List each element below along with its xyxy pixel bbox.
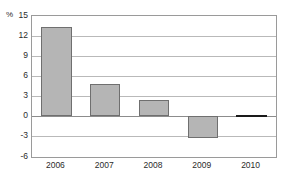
bar-2008 <box>139 100 169 116</box>
y-tick-label: 15 <box>19 10 28 19</box>
bar-2007 <box>90 84 120 116</box>
bar-2006 <box>41 27 71 116</box>
x-tick-label: 2007 <box>95 160 114 170</box>
bars-layer <box>32 16 276 157</box>
y-tick-label: -3 <box>20 131 28 140</box>
y-axis: 15129630-3-6 <box>0 10 30 162</box>
plot-area <box>31 15 277 158</box>
y-tick-label: 9 <box>23 50 28 59</box>
x-tick-label: 2008 <box>144 160 163 170</box>
bar-2009 <box>188 116 218 137</box>
y-tick-label: 3 <box>23 91 28 100</box>
y-tick-label: 12 <box>19 30 28 39</box>
x-axis: 20062007200820092010 <box>31 160 277 176</box>
bar-chart: % 15129630-3-6 20062007200820092010 <box>0 0 287 189</box>
y-tick-label: 6 <box>23 70 28 79</box>
x-tick-label: 2006 <box>46 160 65 170</box>
bar-2010 <box>236 115 266 117</box>
x-tick-label: 2010 <box>241 160 260 170</box>
y-tick-label: 0 <box>23 111 28 120</box>
x-tick-label: 2009 <box>192 160 211 170</box>
y-tick-label: -6 <box>20 151 28 160</box>
